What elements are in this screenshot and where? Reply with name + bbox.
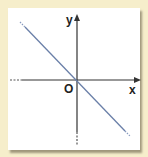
- origin-label: O: [64, 83, 73, 95]
- x-axis-label: x: [129, 84, 136, 96]
- diagram-frame: y O x: [0, 0, 148, 157]
- coordinate-plot: [0, 0, 148, 157]
- function-line-dashed-end: [125, 131, 130, 136]
- y-axis-label: y: [66, 14, 73, 26]
- y-axis-arrow-icon: [74, 14, 80, 21]
- function-line: [25, 27, 125, 131]
- function-line-dashed-start: [20, 22, 25, 27]
